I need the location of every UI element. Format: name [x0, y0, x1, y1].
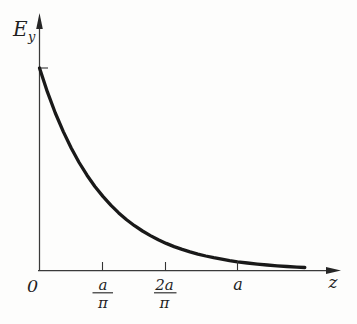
y-axis-arrowhead-icon: [36, 13, 43, 29]
tick-label-denominator: π: [97, 294, 109, 312]
y-axis-label: Ey: [12, 17, 36, 44]
figure-container: a π 2a π a Ey 0 z: [0, 0, 357, 324]
y-axis-label-subscript: y: [27, 29, 36, 44]
tick-label-numerator: a: [99, 276, 108, 294]
chart-svg: a π 2a π a Ey 0 z: [0, 0, 357, 324]
origin-label: 0: [27, 276, 38, 296]
x-axis-label: z: [328, 272, 339, 292]
decay-curve: [40, 68, 305, 268]
x-tick-2a-over-pi: 2a π: [154, 262, 177, 312]
tick-label-numerator: 2a: [154, 276, 174, 294]
y-axis: [36, 13, 43, 271]
x-tick-a-over-pi: a π: [93, 262, 114, 312]
y-axis-label-main: E: [12, 17, 28, 41]
x-tick-a: a: [233, 262, 243, 294]
tick-label-denominator: π: [159, 294, 171, 312]
tick-label: a: [233, 275, 243, 294]
